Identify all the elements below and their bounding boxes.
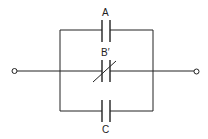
left-terminal-icon: [12, 69, 17, 74]
capacitor-c-symbol: [102, 100, 110, 122]
top-branch: [60, 20, 153, 42]
circuit-diagram: A B′ C: [0, 0, 208, 139]
circuit-drawing: [0, 0, 208, 139]
bottom-branch: [60, 100, 153, 122]
capacitor-b-label: B′: [101, 48, 110, 58]
right-terminal-icon: [194, 69, 199, 74]
capacitor-c-label: C: [102, 125, 109, 135]
capacitor-a-label: A: [102, 8, 109, 18]
middle-branch: [17, 60, 194, 82]
capacitor-a-symbol: [102, 20, 110, 42]
